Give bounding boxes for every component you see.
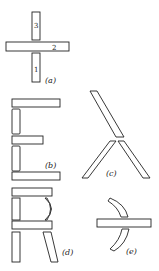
stick-letter-diagram: 3 2 1 (a) (b) (c) (d) (e) bbox=[0, 0, 159, 271]
upper-arc bbox=[108, 198, 128, 217]
figure-a: 3 2 1 (a) bbox=[6, 12, 69, 85]
r-lower-stem bbox=[12, 232, 20, 262]
figure-c: (c) bbox=[82, 91, 150, 178]
r-upper-stem bbox=[12, 198, 20, 220]
e-top-bar bbox=[12, 99, 60, 107]
r-leg-diagonal bbox=[43, 232, 58, 262]
figure-a-label: (a) bbox=[45, 76, 56, 85]
e-lower-stem bbox=[12, 146, 20, 171]
r-bowl-arc bbox=[45, 198, 52, 220]
bar-1-number: 1 bbox=[34, 66, 38, 74]
figure-c-label: (c) bbox=[106, 169, 117, 178]
figure-b: (b) bbox=[12, 99, 60, 180]
bar-2 bbox=[6, 42, 69, 51]
figure-e-label: (e) bbox=[126, 247, 137, 256]
lambda-right-leg bbox=[118, 141, 150, 178]
figure-d-label: (d) bbox=[62, 248, 73, 257]
horizontal-bar bbox=[97, 219, 151, 227]
figure-d: (d) bbox=[12, 188, 73, 262]
r-top-bar bbox=[12, 188, 52, 196]
figure-b-label: (b) bbox=[45, 161, 56, 170]
e-upper-stem bbox=[12, 109, 20, 134]
lambda-long-diagonal bbox=[90, 91, 124, 137]
bar-2-number: 2 bbox=[52, 44, 56, 52]
figure-e: (e) bbox=[97, 198, 151, 256]
r-middle-bar bbox=[12, 221, 52, 229]
e-bottom-bar bbox=[12, 172, 60, 180]
e-middle-bar bbox=[12, 136, 43, 144]
bar-3-number: 3 bbox=[34, 22, 38, 30]
